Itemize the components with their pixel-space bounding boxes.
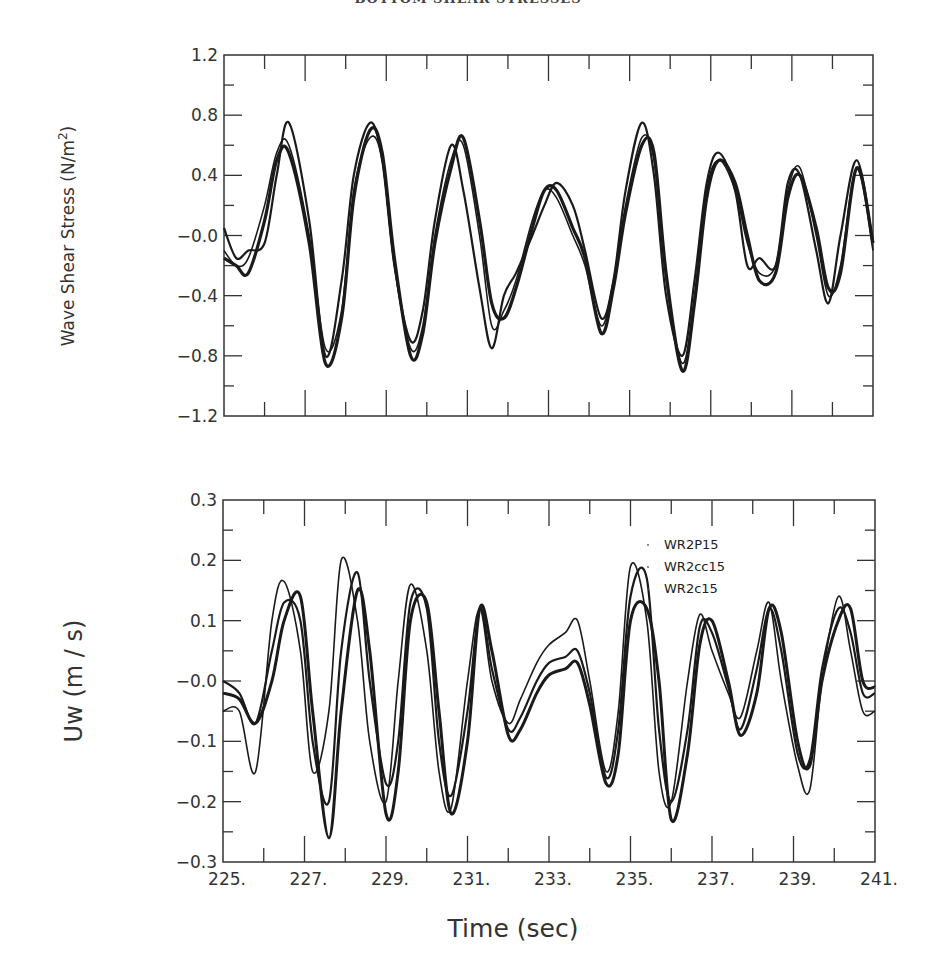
legend-entry: WR2P15 bbox=[664, 537, 719, 552]
series-line-wr2cc15 bbox=[223, 568, 875, 805]
series-line-wr2p15 bbox=[223, 557, 875, 812]
y-tick-label: 1.2 bbox=[191, 45, 218, 65]
y-tick-label: 0.4 bbox=[191, 165, 218, 185]
x-tick-label: 229. bbox=[371, 869, 409, 889]
x-tick-label: 237. bbox=[697, 869, 735, 889]
velocity-axis-ticks bbox=[223, 500, 875, 862]
legend-entry: WR2cc15 bbox=[664, 559, 725, 574]
legend: WR2P15WR2cc15WR2c15 bbox=[647, 537, 725, 596]
shear-series-lines bbox=[224, 122, 873, 372]
shear-y-axis-title: Wave Shear Stress (N/m2) bbox=[56, 126, 78, 346]
shear-plot-frame bbox=[224, 55, 873, 416]
series-line-wr2cc15 bbox=[224, 135, 873, 364]
shear-y-tick-labels: 1.20.80.4−0.0−0.4−0.8−1.2 bbox=[177, 45, 218, 426]
legend-entry: WR2c15 bbox=[664, 581, 718, 596]
y-tick-label: 0.3 bbox=[190, 490, 217, 510]
y-tick-label: 0.1 bbox=[190, 611, 217, 631]
velocity-series-lines bbox=[223, 557, 875, 838]
velocity-chart: 0.30.20.1−0.0−0.1−0.2−0.3 225.227.229.23… bbox=[60, 490, 898, 943]
y-tick-label: −0.2 bbox=[176, 792, 217, 812]
time-x-axis-title: Time (sec) bbox=[447, 914, 579, 943]
y-tick-label: −0.1 bbox=[176, 731, 217, 751]
y-tick-label: −0.4 bbox=[177, 286, 218, 306]
x-tick-label: 241. bbox=[860, 869, 898, 889]
x-tick-label: 227. bbox=[290, 869, 328, 889]
velocity-y-axis-title: Uw (m / s) bbox=[60, 620, 88, 743]
x-tick-label: 225. bbox=[208, 869, 246, 889]
shear-axis-ticks bbox=[224, 55, 873, 416]
time-x-tick-labels: 225.227.229.231.233.235.237.239.241. bbox=[208, 869, 898, 889]
x-tick-label: 233. bbox=[534, 869, 572, 889]
y-tick-label: −1.2 bbox=[177, 406, 218, 426]
y-tick-label: −0.8 bbox=[177, 346, 218, 366]
x-tick-label: 235. bbox=[616, 869, 654, 889]
shear-stress-chart: 1.20.80.4−0.0−0.4−0.8−1.2 Wave Shear Str… bbox=[56, 45, 873, 426]
y-tick-label: 0.8 bbox=[191, 105, 218, 125]
legend-marker bbox=[647, 588, 649, 590]
figure: 1.20.80.4−0.0−0.4−0.8−1.2 Wave Shear Str… bbox=[0, 0, 936, 980]
velocity-plot-frame bbox=[223, 500, 875, 862]
velocity-y-tick-labels: 0.30.20.1−0.0−0.1−0.2−0.3 bbox=[176, 490, 217, 872]
series-line-wr2c15 bbox=[224, 128, 873, 372]
series-line-wr2p15 bbox=[224, 122, 873, 357]
legend-marker bbox=[647, 566, 649, 568]
y-tick-label: −0.0 bbox=[176, 671, 217, 691]
y-tick-label: −0.0 bbox=[177, 226, 218, 246]
x-tick-label: 231. bbox=[453, 869, 491, 889]
legend-marker bbox=[647, 544, 649, 546]
x-tick-label: 239. bbox=[779, 869, 817, 889]
y-tick-label: 0.2 bbox=[190, 550, 217, 570]
